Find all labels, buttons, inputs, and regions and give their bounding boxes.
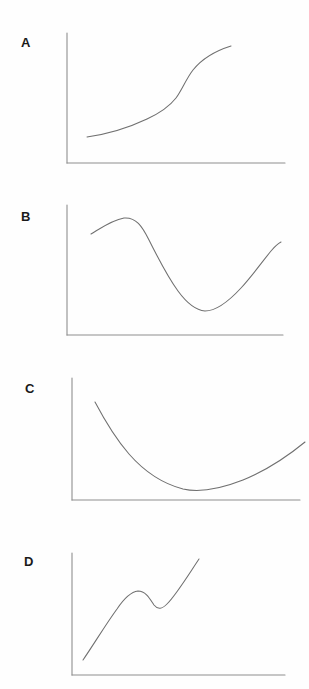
plot-area-b [0, 180, 309, 355]
panel-d: D [0, 530, 309, 689]
curve-b [91, 218, 281, 311]
curve-d [83, 559, 199, 660]
plot-area-c [0, 355, 309, 530]
curve-c [95, 402, 305, 491]
panel-b: B [0, 180, 309, 355]
panel-c: C [0, 355, 309, 530]
curve-a [87, 46, 231, 137]
plot-area-a [0, 0, 309, 180]
panel-a: A [0, 0, 309, 180]
figure-sheet: A B C D [0, 0, 309, 689]
plot-area-d [0, 530, 309, 689]
